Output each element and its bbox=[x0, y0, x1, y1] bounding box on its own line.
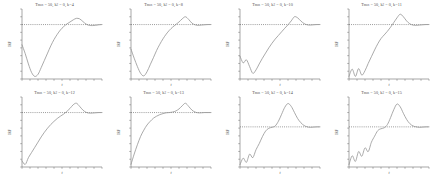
y-axis-label: IRF bbox=[117, 129, 121, 135]
title-suffix: = 0, k=14 bbox=[275, 90, 293, 95]
y-axis-label: IRF bbox=[335, 129, 339, 135]
plot-area bbox=[349, 9, 429, 79]
title-mid: = 50, k bbox=[43, 2, 56, 7]
x-axis-label: t bbox=[131, 82, 211, 87]
y-axis-label: IRF bbox=[226, 129, 230, 135]
title-mid: = 50, k bbox=[260, 90, 273, 95]
x-axis-label: t bbox=[22, 82, 102, 87]
panel-title: Tmax = 50, k2 = 0, k=13 bbox=[109, 90, 218, 96]
plot-svg bbox=[22, 9, 102, 79]
y-axis-label: IRF bbox=[8, 129, 12, 135]
chart-panel-5: Tmax = 50, k2 = 0, k=12IRFt bbox=[0, 88, 109, 176]
irf-curve bbox=[240, 104, 320, 165]
y-axis-label: IRF bbox=[335, 41, 339, 47]
title-suffix: = 0, k=4 bbox=[58, 2, 74, 7]
plot-svg bbox=[349, 97, 429, 167]
x-axis-label: t bbox=[240, 82, 320, 87]
plot-svg bbox=[131, 9, 211, 79]
chart-panel-3: Tmax = 50, k2 = 0, k=10IRFt bbox=[218, 0, 327, 88]
x-axis-label: t bbox=[349, 82, 429, 87]
title-mid: = 50, k bbox=[152, 2, 165, 7]
chart-panel-7: Tmax = 50, k2 = 0, k=14IRFt bbox=[218, 88, 327, 176]
plot-svg bbox=[22, 97, 102, 167]
plot-area bbox=[131, 97, 211, 167]
panel-title: Tmax = 50, k2 = 0, k=11 bbox=[327, 2, 436, 8]
x-axis-label: t bbox=[131, 170, 211, 175]
panel-title: Tmax = 50, k2 = 0, k=10 bbox=[218, 2, 327, 8]
panel-title: Tmax = 50, k2 = 0, k=15 bbox=[327, 90, 436, 96]
panel-title: Tmax = 50, k2 = 0, k=12 bbox=[0, 90, 109, 96]
x-axis-label: t bbox=[22, 170, 102, 175]
x-axis-label: t bbox=[349, 170, 429, 175]
y-axis-label: IRF bbox=[117, 41, 121, 47]
y-axis-label: IRF bbox=[226, 41, 230, 47]
title-mid: = 50, k bbox=[42, 90, 55, 95]
panel-title: Tmax = 50, k2 = 0, k=8 bbox=[109, 2, 218, 8]
chart-panel-8: Tmax = 50, k2 = 0, k=15IRFt bbox=[327, 88, 436, 176]
plot-svg bbox=[349, 9, 429, 79]
title-mid: = 50, k bbox=[369, 90, 382, 95]
title-mid: = 50, k bbox=[151, 90, 164, 95]
irf-curve bbox=[240, 17, 320, 74]
irf-curve bbox=[131, 17, 211, 76]
irf-curve bbox=[349, 14, 429, 76]
title-suffix: = 0, k=11 bbox=[384, 2, 402, 7]
chart-panel-1: Tmax = 50, k2 = 0, k=4IRFt bbox=[0, 0, 109, 88]
title-suffix: = 0, k=10 bbox=[275, 2, 293, 7]
chart-panel-2: Tmax = 50, k2 = 0, k=8IRFt bbox=[109, 0, 218, 88]
title-suffix: = 0, k=8 bbox=[167, 2, 183, 7]
plot-area bbox=[349, 97, 429, 167]
plot-area bbox=[22, 9, 102, 79]
panel-title: Tmax = 50, k2 = 0, k=4 bbox=[0, 2, 109, 8]
plot-svg bbox=[240, 9, 320, 79]
plot-svg bbox=[240, 97, 320, 167]
chart-panel-4: Tmax = 50, k2 = 0, k=11IRFt bbox=[327, 0, 436, 88]
plot-svg bbox=[131, 97, 211, 167]
title-suffix: = 0, k=13 bbox=[166, 90, 184, 95]
panel-grid: Tmax = 50, k2 = 0, k=4IRFtTmax = 50, k2 … bbox=[0, 0, 436, 176]
irf-curve bbox=[22, 18, 102, 76]
irf-curve bbox=[349, 104, 429, 165]
title-mid: = 50, k bbox=[369, 2, 382, 7]
title-suffix: = 0, k=15 bbox=[384, 90, 402, 95]
title-suffix: = 0, k=12 bbox=[57, 90, 75, 95]
plot-area bbox=[131, 9, 211, 79]
title-mid: = 50, k bbox=[260, 2, 273, 7]
y-axis-label: IRF bbox=[8, 41, 12, 47]
x-axis-label: t bbox=[240, 170, 320, 175]
chart-panel-6: Tmax = 50, k2 = 0, k=13IRFt bbox=[109, 88, 218, 176]
plot-area bbox=[240, 97, 320, 167]
plot-area bbox=[240, 9, 320, 79]
plot-area bbox=[22, 97, 102, 167]
panel-title: Tmax = 50, k2 = 0, k=14 bbox=[218, 90, 327, 96]
